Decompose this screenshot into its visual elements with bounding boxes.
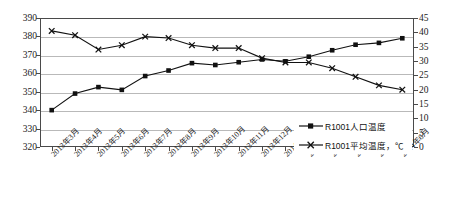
y-axis-left-tick-label: 320 — [0, 143, 37, 153]
legend: R1001人口温度 R1001平均温度，℃ — [294, 116, 412, 154]
data-point — [49, 108, 54, 113]
y-axis-right-tickmark — [414, 104, 418, 105]
legend-item-average-temperature: R1001平均温度，℃ — [294, 135, 412, 154]
y-axis-right-tickmark — [414, 47, 418, 48]
y-axis-right-tick-label: 0 — [419, 143, 453, 153]
data-point — [353, 42, 358, 47]
data-point — [330, 48, 335, 53]
y-axis-left-tickmark — [36, 147, 40, 148]
data-point — [73, 91, 78, 96]
y-axis-left-tick-label: 350 — [0, 88, 37, 98]
y-axis-right-tick-label: 15 — [419, 100, 453, 110]
y-axis-right-tick-label: 45 — [419, 14, 453, 24]
cross-marker-icon — [298, 140, 324, 150]
data-point — [166, 68, 171, 73]
data-point — [143, 74, 148, 79]
y-axis-right-tick-label: 40 — [419, 28, 453, 38]
y-axis-right-tickmark — [414, 90, 418, 91]
legend-item-population-temperature: R1001人口温度 — [294, 116, 412, 135]
y-axis-left-tick-label: 360 — [0, 69, 37, 79]
data-point — [377, 41, 382, 46]
square-marker-icon — [298, 121, 324, 131]
y-axis-right-tickmark — [414, 75, 418, 76]
y-axis-right-tick-label: 30 — [419, 57, 453, 67]
line-chart: 390 380 370 360 350 340 330 320 45 40 35… — [0, 0, 455, 213]
y-axis-left-tick-label: 380 — [0, 32, 37, 42]
y-axis-left-tick-label: 340 — [0, 106, 37, 116]
y-axis-right-tick-label: 20 — [419, 86, 453, 96]
data-point — [400, 36, 405, 41]
data-point — [236, 60, 241, 65]
y-axis-right-tickmark — [414, 18, 418, 19]
y-axis-left-tick-label: 330 — [0, 125, 37, 135]
data-point — [120, 88, 125, 93]
y-axis-left-tick-label: 370 — [0, 51, 37, 61]
data-point — [307, 54, 312, 59]
y-axis-right-tick-label: 35 — [419, 43, 453, 53]
series-average-temperature-line — [52, 31, 403, 90]
y-axis-right-tick-label: 10 — [419, 114, 453, 124]
legend-label-population-temperature: R1001人口温度 — [324, 120, 386, 132]
y-axis-right-tick-label: 25 — [419, 71, 453, 81]
y-axis-right-tickmark — [414, 118, 418, 119]
series-average-temperature-markers — [49, 28, 405, 92]
series-population-temperature-markers — [49, 36, 404, 112]
data-point — [213, 63, 218, 68]
y-axis-left-tick-label: 390 — [0, 14, 37, 24]
y-axis-right-tickmark — [414, 61, 418, 62]
data-point — [353, 74, 359, 80]
y-axis-right-tickmark — [414, 32, 418, 33]
data-point — [190, 61, 195, 66]
legend-label-average-temperature: R1001平均温度，℃ — [324, 139, 404, 151]
data-point — [96, 85, 101, 90]
